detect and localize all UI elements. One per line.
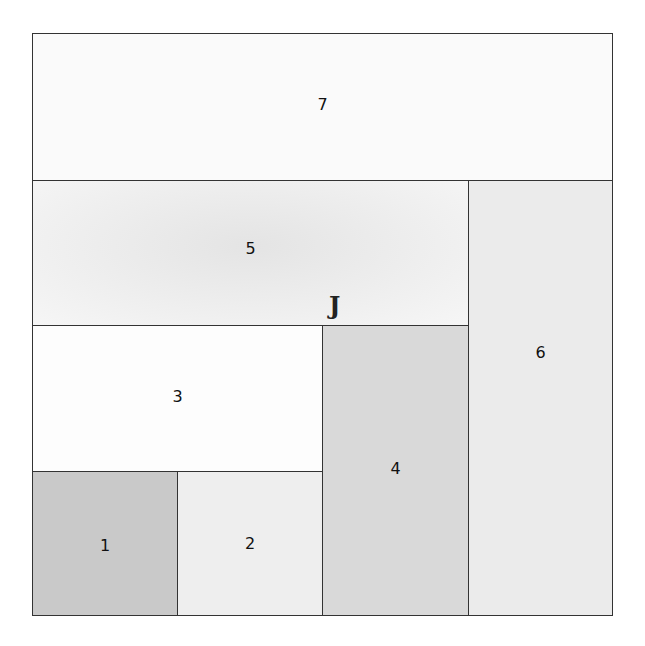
block-label-7: 7 bbox=[317, 95, 327, 114]
annotation-j: J bbox=[329, 291, 340, 320]
block-label-1: 1 bbox=[100, 536, 110, 555]
block-label-5: 5 bbox=[245, 239, 255, 258]
block-label-6: 6 bbox=[535, 343, 545, 362]
block-5: 5 bbox=[32, 180, 469, 326]
block-1: 1 bbox=[32, 471, 178, 616]
block-label-4: 4 bbox=[390, 459, 400, 478]
block-label-3: 3 bbox=[172, 387, 182, 406]
block-4: 4 bbox=[322, 325, 469, 616]
diagram-frame: 7 5 6 3 4 1 2 J bbox=[32, 33, 613, 614]
block-3: 3 bbox=[32, 325, 323, 472]
block-2: 2 bbox=[177, 471, 323, 616]
block-label-2: 2 bbox=[245, 534, 255, 553]
block-7: 7 bbox=[32, 33, 613, 181]
block-6: 6 bbox=[468, 180, 613, 616]
